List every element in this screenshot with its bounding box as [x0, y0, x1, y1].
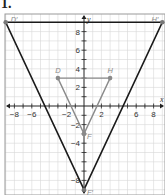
tick-labels: xy−8−6−22688642−2−4−8	[10, 15, 164, 185]
axes	[6, 15, 164, 194]
x-tick-label: −6	[27, 110, 37, 119]
vertex-label: F	[87, 132, 92, 141]
x-axis-arrow-left-icon	[6, 104, 10, 109]
vertex-label: D	[55, 66, 61, 75]
y-axis-arrow-up-icon	[82, 15, 87, 19]
x-tick-label: −8	[10, 110, 20, 119]
x-tick-label: −2	[62, 110, 72, 119]
vertex-point	[160, 20, 165, 25]
vertex-point	[56, 76, 61, 81]
y-tick-label: 4	[76, 65, 81, 74]
y-tick-label: −4	[71, 139, 81, 148]
vertex-point	[3, 20, 8, 25]
y-tick-label: 6	[76, 46, 81, 55]
vertex-point	[82, 132, 87, 137]
vertex-label: D′	[11, 15, 18, 24]
y-tick-label: 2	[76, 83, 81, 92]
x-tick-label: 8	[151, 110, 156, 119]
vertex-point	[82, 187, 87, 192]
coordinate-plane: xy−8−6−22688642−2−4−8 D′H′F′DHF	[0, 0, 165, 195]
vertex-label: F′	[87, 188, 94, 195]
x-tick-label: 2	[99, 110, 104, 119]
x-axis-label: x	[159, 95, 164, 104]
y-tick-label: 8	[76, 28, 81, 37]
vertex-point	[108, 76, 113, 81]
x-tick-label: 6	[134, 110, 139, 119]
vertex-label: H′	[151, 15, 158, 24]
vertex-label: H	[107, 66, 113, 75]
